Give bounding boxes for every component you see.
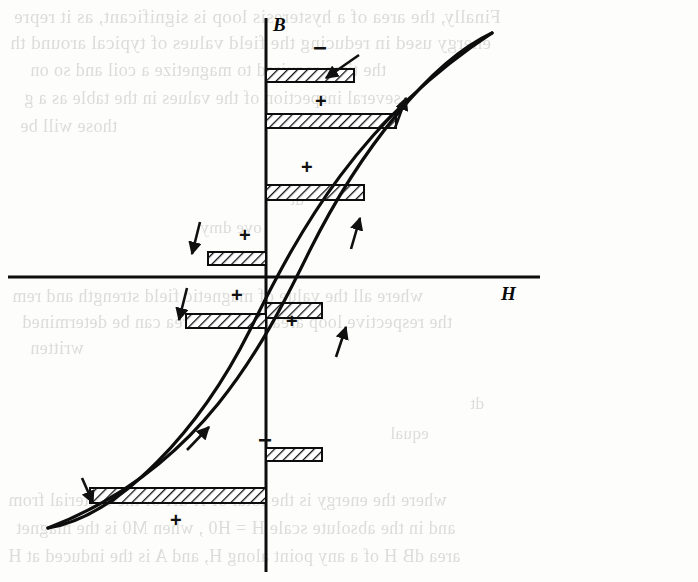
minus-sign-annotation: − — [313, 36, 327, 60]
direction-arrow — [336, 327, 346, 357]
plus-sign-annotation: + — [301, 157, 313, 177]
hatched-band — [266, 69, 354, 82]
hatched-band — [266, 185, 364, 200]
direction-arrow — [187, 427, 209, 450]
direction-arrow — [192, 222, 200, 254]
hatched-band — [266, 448, 322, 461]
plus-sign-annotation: + — [170, 510, 182, 530]
hatched-bands-group — [90, 69, 396, 503]
hatched-band — [208, 252, 266, 265]
figure-page: Finally, the area of a hysteresis loop i… — [0, 0, 698, 582]
axis-label-B: B — [273, 14, 286, 36]
minus-sign-annotation: − — [258, 428, 272, 452]
hatched-band — [266, 114, 396, 128]
plus-sign-annotation: + — [315, 91, 327, 111]
plus-sign-annotation: + — [239, 225, 251, 245]
direction-arrow — [351, 218, 360, 249]
plus-sign-annotation: + — [286, 311, 298, 331]
axis-label-H: H — [501, 283, 516, 305]
hysteresis-loop-figure — [0, 0, 698, 582]
plus-sign-annotation: + — [231, 285, 243, 305]
